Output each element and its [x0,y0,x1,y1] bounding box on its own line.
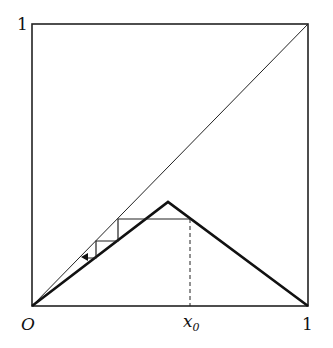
origin-label: O [21,314,35,334]
x0-label: x0 [183,311,200,334]
y-axis-one-label: 1 [17,14,28,34]
x0-sub: 0 [193,321,200,334]
diagonal-line [32,24,308,306]
x0-main: x [183,311,193,331]
x-axis-one-label: 1 [302,314,313,334]
tent-map-curve [32,202,308,306]
cobweb-diagram [0,0,333,348]
